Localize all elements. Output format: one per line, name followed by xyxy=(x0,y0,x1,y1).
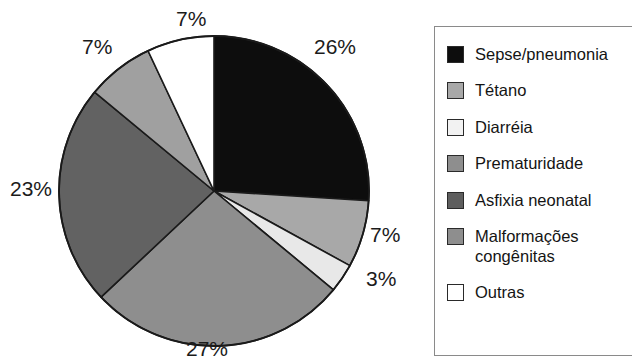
pie-slice-group xyxy=(59,36,369,346)
legend-swatch-icon-asfixia-neonatal xyxy=(447,192,464,209)
legend-item-asfixia-neonatal: Asfixia neonatal xyxy=(447,191,632,210)
legend-swatch-icon-prematuridade xyxy=(447,155,464,172)
legend-swatch-icon-diarreia xyxy=(447,119,464,136)
legend-item-outras: Outras xyxy=(447,283,632,302)
pie-chart-figure: 26% 7% 3% 27% 23% 7% 7% Sepse/pneumonia … xyxy=(0,0,632,356)
legend-label-diarreia: Diarréia xyxy=(475,118,533,137)
legend-label-malformacoes-congenitas: Malformações congênitas xyxy=(475,227,579,266)
legend-item-sepse-pneumonia: Sepse/pneumonia xyxy=(447,45,632,64)
pie-chart-plot-area: 26% 7% 3% 27% 23% 7% 7% xyxy=(0,0,432,356)
legend-label-sepse-pneumonia: Sepse/pneumonia xyxy=(475,45,608,64)
legend-label-prematuridade: Prematuridade xyxy=(475,154,583,173)
legend-label-tetano: Tétano xyxy=(475,81,526,100)
legend-swatch-icon-outras xyxy=(447,284,464,301)
pie-label-asfixia-neonatal: 23% xyxy=(10,178,52,199)
legend-swatch-icon-tetano xyxy=(447,82,464,99)
legend-item-malformacoes-congenitas: Malformações congênitas xyxy=(447,227,632,266)
legend-label-outras: Outras xyxy=(475,283,525,302)
legend-item-tetano: Tétano xyxy=(447,81,632,100)
legend-swatch-icon-malformacoes-congenitas xyxy=(447,228,464,245)
legend: Sepse/pneumonia Tétano Diarréia Prematur… xyxy=(434,26,632,356)
pie-label-outras: 7% xyxy=(176,8,206,29)
pie-label-malformacoes-congenitas: 7% xyxy=(82,36,112,57)
pie-label-diarreia: 3% xyxy=(366,268,396,289)
legend-swatch-icon-sepse-pneumonia xyxy=(447,46,464,63)
pie-slice xyxy=(214,36,369,201)
pie-label-sepse-pneumonia: 26% xyxy=(314,36,356,57)
legend-label-asfixia-neonatal: Asfixia neonatal xyxy=(475,191,592,210)
pie-label-prematuridade: 27% xyxy=(186,338,228,356)
pie-chart-svg xyxy=(0,0,432,356)
legend-item-diarreia: Diarréia xyxy=(447,118,632,137)
legend-item-prematuridade: Prematuridade xyxy=(447,154,632,173)
pie-label-tetano: 7% xyxy=(370,224,400,245)
